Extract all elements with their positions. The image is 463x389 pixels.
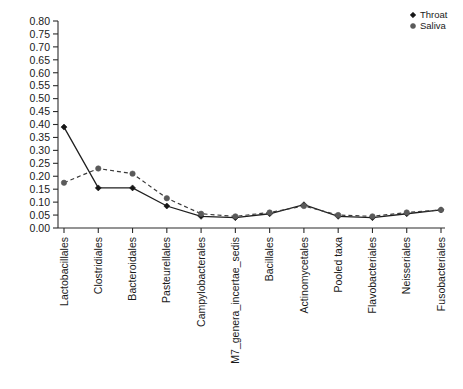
y-tick-label: 0.00 bbox=[30, 222, 51, 234]
x-tick-label: Flavobacteriales bbox=[366, 237, 378, 313]
legend-label-throat: Throat bbox=[420, 9, 448, 20]
y-tick-label: 0.10 bbox=[30, 196, 51, 208]
data-point-saliva-1 bbox=[96, 166, 101, 171]
y-tick-label: 0.15 bbox=[30, 183, 51, 195]
line-chart: 0.000.050.100.150.200.250.300.350.400.45… bbox=[0, 0, 463, 389]
y-tick-label: 0.20 bbox=[30, 170, 51, 182]
data-point-saliva-0 bbox=[61, 180, 66, 185]
data-point-saliva-9 bbox=[370, 214, 375, 219]
data-point-throat-2 bbox=[130, 185, 136, 191]
series-throat bbox=[61, 124, 444, 221]
data-point-saliva-3 bbox=[164, 196, 169, 201]
x-tick-label: Actinomycetales bbox=[298, 237, 310, 313]
x-tick-label: Bacillales bbox=[263, 237, 275, 281]
legend-entry-saliva: Saliva bbox=[411, 20, 447, 31]
data-point-saliva-6 bbox=[267, 210, 272, 215]
data-point-saliva-7 bbox=[301, 203, 306, 208]
x-tick-label: Neisseriales bbox=[400, 237, 412, 294]
chart-canvas: 0.000.050.100.150.200.250.300.350.400.45… bbox=[0, 0, 463, 389]
x-tick-label: M7_genera_incertae_sedis bbox=[229, 237, 241, 364]
data-point-saliva-8 bbox=[335, 212, 340, 217]
y-tick-label: 0.05 bbox=[30, 209, 51, 221]
x-tick-label: Clostridiales bbox=[92, 237, 104, 294]
y-tick-label: 0.30 bbox=[30, 144, 51, 156]
data-point-saliva-2 bbox=[130, 171, 135, 176]
y-tick-label: 0.40 bbox=[30, 118, 51, 130]
y-tick-label: 0.35 bbox=[30, 131, 51, 143]
y-tick-label: 0.80 bbox=[30, 15, 51, 27]
y-tick-label: 0.45 bbox=[30, 105, 51, 117]
x-tick-label: Fusobacteriales bbox=[435, 237, 447, 311]
y-tick-label: 0.60 bbox=[30, 67, 51, 79]
data-point-saliva-4 bbox=[198, 211, 203, 216]
y-tick-label: 0.70 bbox=[30, 41, 51, 53]
data-point-saliva-10 bbox=[404, 210, 409, 215]
legend-entry-throat: Throat bbox=[410, 9, 448, 20]
x-tick-label: Campylobacterales bbox=[195, 237, 207, 327]
series-saliva bbox=[61, 166, 443, 219]
x-tick-label: Bacteroidales bbox=[126, 237, 138, 301]
legend-marker-saliva bbox=[411, 24, 416, 29]
y-tick-label: 0.55 bbox=[30, 79, 51, 91]
y-tick-label: 0.50 bbox=[30, 92, 51, 104]
x-tick-label: Pooled taxa bbox=[332, 237, 344, 293]
legend-marker-throat bbox=[410, 12, 416, 18]
x-tick-label: Pasteurellales bbox=[160, 237, 172, 303]
data-point-saliva-11 bbox=[438, 207, 443, 212]
y-tick-label: 0.75 bbox=[30, 28, 51, 40]
data-point-throat-1 bbox=[95, 185, 101, 191]
y-tick-label: 0.65 bbox=[30, 54, 51, 66]
data-point-saliva-5 bbox=[233, 214, 238, 219]
data-point-throat-3 bbox=[164, 203, 170, 209]
series-line-saliva bbox=[64, 168, 441, 216]
data-point-throat-0 bbox=[61, 124, 67, 130]
x-tick-label: Lactobacillales bbox=[58, 237, 70, 306]
y-tick-label: 0.25 bbox=[30, 157, 51, 169]
legend-label-saliva: Saliva bbox=[420, 20, 447, 31]
